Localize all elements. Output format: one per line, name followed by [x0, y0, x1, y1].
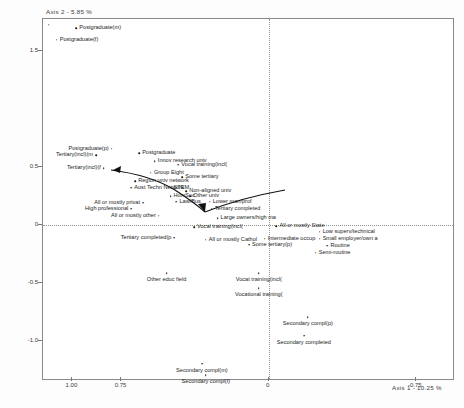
y-tick-label: -0.5 — [12, 279, 38, 285]
x-tick-label: -0.75 — [408, 382, 422, 388]
data-point — [276, 225, 278, 227]
data-point — [209, 201, 211, 203]
point-label: Secondary completed — [277, 340, 331, 346]
y-tick-mark — [38, 282, 42, 283]
data-point — [201, 363, 203, 365]
point-label: Lower man/prof — [213, 199, 252, 205]
data-point — [193, 226, 195, 228]
point-label: Small employer/own a — [323, 236, 378, 242]
data-point — [258, 273, 260, 275]
point-label: Region univ network — [138, 178, 189, 184]
data-point — [130, 187, 132, 189]
data-point — [189, 195, 191, 197]
data-point — [178, 164, 180, 166]
point-label: All or mostly Cathol — [209, 237, 257, 243]
data-point — [138, 152, 140, 154]
data-point — [315, 252, 317, 254]
data-point — [158, 215, 160, 217]
data-point — [205, 374, 207, 376]
point-label: Law/Bus — [179, 199, 200, 205]
data-point — [95, 155, 97, 157]
data-point — [327, 245, 329, 247]
data-point — [307, 317, 309, 319]
horizontal-reference-line — [43, 225, 453, 226]
point-label: Tertiary completed(p — [121, 235, 172, 241]
point-label: Tertiary(incl)(m — [56, 153, 93, 159]
data-point — [176, 201, 178, 203]
y-tick-label: -1.0 — [12, 337, 38, 343]
point-label: Tertiary(incl)(f — [67, 165, 101, 171]
point-label: Vocational training( — [235, 293, 283, 299]
data-point — [103, 167, 105, 169]
data-point — [166, 273, 168, 275]
data-point — [130, 208, 132, 210]
point-label: Vocat training(incl( — [236, 278, 282, 284]
point-label: Vocal training(incl( — [181, 162, 227, 168]
point-label: Large owners/high ma — [221, 215, 276, 221]
data-point — [142, 202, 144, 204]
data-point — [56, 39, 58, 41]
point-label: Vocal training(incl( — [197, 224, 243, 230]
x-tick-mark — [71, 377, 72, 381]
y-tick-mark — [38, 340, 42, 341]
vertical-reference-line — [269, 19, 270, 379]
x-tick-label: 0 — [266, 382, 269, 388]
y-tick-label: 0 — [12, 221, 38, 227]
point-label: Semi-routine — [319, 250, 351, 256]
data-point — [264, 238, 266, 240]
point-label: All or mostly State — [279, 223, 324, 229]
data-point — [211, 208, 213, 210]
point-label: Postgraduate — [142, 150, 175, 156]
correspondence-analysis-plot: Axis 2 - 5.85 % Axis 1 - 10.25 % Postgra… — [0, 0, 464, 408]
data-point — [170, 187, 172, 189]
y-axis-title: Axis 2 - 5.85 % — [46, 8, 92, 15]
data-point — [258, 288, 260, 290]
point-label: Routine — [330, 243, 349, 249]
x-tick-label: 0.75 — [115, 382, 127, 388]
data-point — [111, 148, 113, 150]
data-point — [303, 335, 305, 337]
point-label: All or mostly other — [111, 213, 156, 219]
point-label: Secondary compl(m) — [176, 368, 228, 374]
data-point — [174, 237, 176, 239]
y-tick-mark — [38, 166, 42, 167]
point-label: Low superv/technical — [323, 229, 375, 235]
point-label: Other educ field — [147, 278, 187, 284]
data-point — [154, 160, 156, 162]
plot-area: Postgraduate(m)Postgraduate(f)Postgradua… — [42, 18, 454, 380]
x-tick-label: 1.00 — [66, 382, 78, 388]
point-label: Group Eight — [154, 170, 184, 176]
point-label: Secondary compl(p) — [283, 322, 333, 328]
point-label: Some tertiary(p) — [252, 242, 292, 248]
y-tick-mark — [38, 224, 42, 225]
data-point — [134, 180, 136, 182]
y-tick-label: 1.5 — [12, 47, 38, 53]
data-point — [76, 27, 78, 29]
data-point — [150, 172, 152, 174]
point-label: High professional — [85, 206, 128, 212]
point-label: Postgraduate(m) — [79, 25, 121, 31]
x-tick-mark — [268, 377, 269, 381]
data-point — [248, 244, 250, 246]
point-label: Some tertiary — [185, 175, 218, 181]
y-tick-mark — [38, 50, 42, 51]
data-point — [48, 24, 50, 26]
point-label: Postgraduate(p) — [69, 146, 109, 152]
point-label: Secondary compl(f) — [182, 379, 231, 385]
x-tick-mark — [120, 377, 121, 381]
data-point — [319, 238, 321, 240]
point-label: Postgraduate(f) — [60, 37, 99, 43]
data-point — [319, 231, 321, 233]
y-tick-label: 0.5 — [12, 163, 38, 169]
data-point — [217, 217, 219, 219]
point-label: Tertiary completed — [215, 206, 261, 212]
data-point — [205, 239, 207, 241]
data-point — [170, 195, 172, 197]
x-tick-mark — [415, 377, 416, 381]
